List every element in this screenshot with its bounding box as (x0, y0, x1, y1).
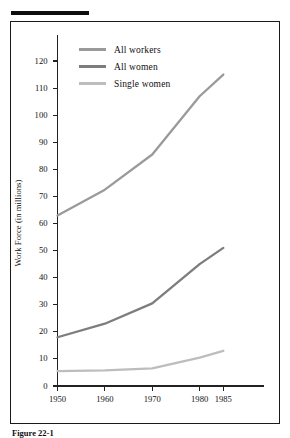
x-tick-label: 1970 (135, 394, 169, 404)
series-line (58, 248, 224, 337)
legend-label: Single women (114, 79, 170, 89)
y-tick-label: 110 (22, 83, 48, 93)
y-tick-label: 10 (22, 353, 48, 363)
x-tick-label: 1985 (206, 394, 240, 404)
series-layer (58, 75, 224, 372)
legend-swatch (79, 82, 106, 85)
y-tick-label: 50 (22, 245, 48, 255)
y-tick-label: 20 (22, 326, 48, 336)
legend-item: All workers (79, 41, 209, 58)
y-tick-label: 80 (22, 164, 48, 174)
y-tick-label: 120 (22, 56, 48, 66)
legend-label: All women (114, 62, 158, 72)
y-tick-label: 100 (22, 110, 48, 120)
legend-item: All women (79, 58, 209, 75)
y-tick-label: 40 (22, 272, 48, 282)
chart-legend: All workersAll womenSingle women (79, 41, 209, 92)
series-line (58, 351, 224, 371)
y-tick-label: 30 (22, 299, 48, 309)
y-tick-label: 60 (22, 218, 48, 228)
legend-swatch (79, 48, 106, 51)
legend-swatch (79, 65, 106, 68)
legend-item: Single women (79, 75, 209, 92)
series-line (58, 75, 224, 216)
x-tick-label: 1960 (88, 394, 122, 404)
y-tick-label: 70 (22, 191, 48, 201)
figure-caption: Figure 22-1 (12, 428, 54, 438)
y-tick-label: 0 (22, 381, 48, 391)
x-tick-label: 1950 (41, 394, 75, 404)
y-tick-label: 90 (22, 137, 48, 147)
legend-label: All workers (114, 45, 161, 55)
